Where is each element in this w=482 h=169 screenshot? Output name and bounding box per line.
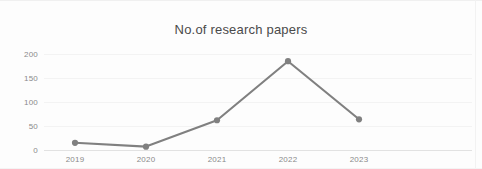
data-markers bbox=[72, 58, 362, 150]
data-line bbox=[75, 61, 359, 146]
data-point-marker bbox=[143, 144, 149, 150]
line-plot bbox=[0, 0, 482, 169]
data-point-marker bbox=[356, 116, 362, 122]
data-point-marker bbox=[285, 58, 291, 64]
data-point-marker bbox=[214, 117, 220, 123]
chart-screenshot: No.of research papers 050100150200 20192… bbox=[0, 0, 482, 169]
data-point-marker bbox=[72, 140, 78, 146]
